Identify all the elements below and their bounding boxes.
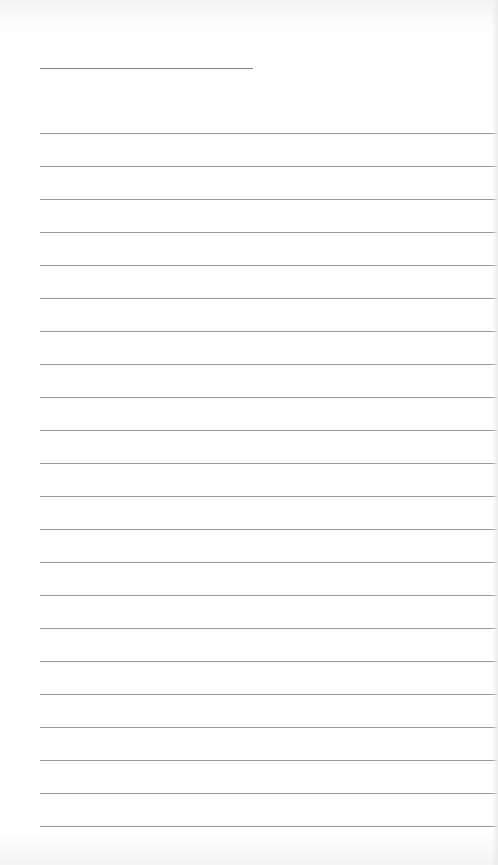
ruled-line bbox=[40, 529, 498, 530]
ruled-line bbox=[40, 463, 498, 464]
ruled-line bbox=[40, 694, 498, 695]
ruled-line bbox=[40, 826, 498, 827]
ruled-line bbox=[40, 397, 498, 398]
ruled-line bbox=[40, 265, 498, 266]
ruled-line bbox=[40, 496, 498, 497]
ruled-line bbox=[40, 562, 498, 563]
ruled-line bbox=[40, 133, 498, 134]
ruled-line bbox=[40, 199, 498, 200]
lined-paper-sheet bbox=[0, 0, 498, 865]
ruled-line bbox=[40, 628, 498, 629]
ruled-line bbox=[40, 661, 498, 662]
ruled-line bbox=[40, 364, 498, 365]
ruled-line bbox=[40, 793, 498, 794]
ruled-line bbox=[40, 166, 498, 167]
ruled-lines bbox=[40, 0, 498, 865]
ruled-line bbox=[40, 760, 498, 761]
ruled-line bbox=[40, 430, 498, 431]
ruled-line bbox=[40, 331, 498, 332]
ruled-line bbox=[40, 595, 498, 596]
ruled-line bbox=[40, 727, 498, 728]
ruled-line bbox=[40, 232, 498, 233]
ruled-line bbox=[40, 298, 498, 299]
paper-edge-shadow bbox=[492, 0, 498, 865]
